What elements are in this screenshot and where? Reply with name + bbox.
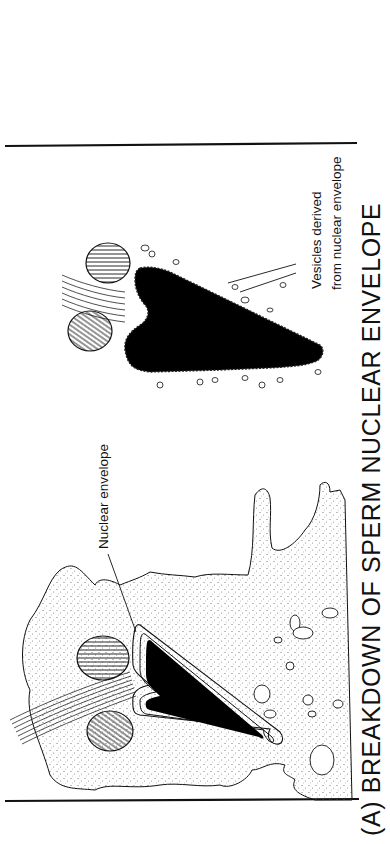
mitochondrion-upper-b — [86, 243, 130, 283]
diagram-canvas — [0, 0, 390, 844]
figure-title: (A) BREAKDOWN OF SPERM NUCLEAR ENVELOPE — [357, 203, 386, 836]
sperm-nucleus-fragmenting — [125, 267, 323, 372]
top-rule — [5, 143, 357, 146]
egg-cytoplasm — [23, 482, 353, 800]
vesicle-arrow-2 — [240, 273, 296, 292]
vesicles-label-line2: from nuclear envelope — [329, 156, 344, 290]
intact-nucleus-panel — [10, 482, 352, 800]
vesicles-label-line1: Vesicles derived — [309, 191, 324, 289]
fragmenting-nucleus-panel — [62, 243, 323, 388]
bottom-rule — [5, 799, 359, 801]
mitochondrion-lower-b — [68, 311, 112, 351]
vesicle-arrow-1 — [228, 264, 296, 283]
mitochondrion-upper — [77, 636, 129, 680]
nuclear-envelope-label: Nuclear envelope — [96, 444, 111, 549]
mitochondrion-lower — [87, 711, 133, 751]
